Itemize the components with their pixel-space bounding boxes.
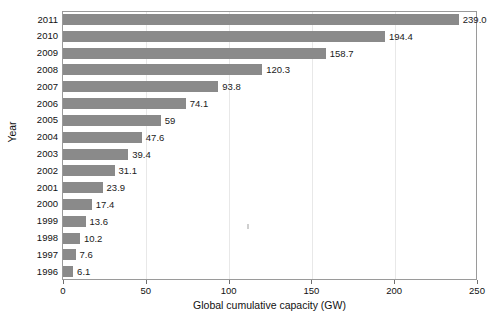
bar-row: 194.4 <box>63 28 477 45</box>
bar <box>63 48 326 59</box>
bar-row: 59 <box>63 112 477 129</box>
bar-chart: 2011201020092008200720062005200420032002… <box>0 0 499 327</box>
bar <box>63 14 459 25</box>
x-axis-tick-mark <box>394 280 395 284</box>
bar-value-label: 158.7 <box>330 46 354 61</box>
y-axis-tick-label: 1998 <box>0 232 58 244</box>
bar <box>63 115 161 126</box>
y-axis-tick-label: 2001 <box>0 182 58 194</box>
bar-row: 13.6 <box>63 213 477 230</box>
bar-row: 10.2 <box>63 230 477 247</box>
x-axis-tick-mark <box>229 280 230 284</box>
y-axis-tick-label: 2007 <box>0 81 58 93</box>
y-axis-title: Year <box>6 102 18 162</box>
bar <box>63 132 142 143</box>
bar <box>63 81 218 92</box>
bar <box>63 149 128 160</box>
bar-value-label: 13.6 <box>90 214 109 229</box>
bar-value-label: 47.6 <box>146 130 165 145</box>
bar-value-label: 23.9 <box>107 180 126 195</box>
bar <box>63 31 385 42</box>
bar-value-label: 194.4 <box>389 29 413 44</box>
bar <box>63 233 80 244</box>
x-axis-tick-label: 150 <box>303 285 319 297</box>
bar-row: 47.6 <box>63 129 477 146</box>
bar <box>63 182 103 193</box>
y-axis-tick-label: 1997 <box>0 249 58 261</box>
x-axis-tick-mark <box>146 280 147 284</box>
bar-row: 93.8 <box>63 78 477 95</box>
bar-value-label: 93.8 <box>222 79 241 94</box>
y-axis-tick-label: 1996 <box>0 266 58 278</box>
bar-row: 74.1 <box>63 95 477 112</box>
bar-row: 23.9 <box>63 179 477 196</box>
bar <box>63 249 76 260</box>
y-axis-tick-label: 2011 <box>0 14 58 26</box>
bar-row: 7.6 <box>63 246 477 263</box>
bar <box>63 98 186 109</box>
bar-row: 120.3 <box>63 61 477 78</box>
bar-value-label: 6.1 <box>77 264 90 279</box>
x-axis-title: Global cumulative capacity (GW) <box>62 299 477 311</box>
bar-value-label: 120.3 <box>266 62 290 77</box>
y-axis-tick-label: 2009 <box>0 47 58 59</box>
x-axis-tick-label: 200 <box>386 285 402 297</box>
x-axis-tick-mark <box>63 280 64 284</box>
x-axis-tick-label: 250 <box>469 285 485 297</box>
bar-row: 17.4 <box>63 196 477 213</box>
bar-value-label: 39.4 <box>132 147 151 162</box>
y-axis-tick-label: 2000 <box>0 198 58 210</box>
x-axis-tick-mark <box>477 280 478 284</box>
y-axis-tick-label: 2010 <box>0 30 58 42</box>
bar-row: 6.1 <box>63 263 477 280</box>
bar <box>63 199 92 210</box>
bar-value-label: 31.1 <box>119 163 138 178</box>
y-axis-tick-label: 2002 <box>0 165 58 177</box>
x-axis-tick-label: 100 <box>221 285 237 297</box>
bar <box>63 165 115 176</box>
bar-value-label: 239.0 <box>463 12 487 27</box>
y-axis-tick-label: 1999 <box>0 215 58 227</box>
bar-value-label: 17.4 <box>96 197 115 212</box>
y-axis-tick-label: 2008 <box>0 64 58 76</box>
x-axis-tick-mark <box>311 280 312 284</box>
bar <box>63 64 262 75</box>
bar-value-label: 7.6 <box>80 247 93 262</box>
bar-value-label: 10.2 <box>84 231 103 246</box>
bar <box>63 266 73 277</box>
bar-row: 239.0 <box>63 11 477 28</box>
bars-layer: 239.0194.4158.7120.393.874.15947.639.431… <box>63 11 477 280</box>
x-axis-tick-label: 0 <box>60 285 65 297</box>
bar-row: 158.7 <box>63 45 477 62</box>
x-axis-tick-label: 50 <box>141 285 152 297</box>
bar-value-label: 59 <box>165 113 176 128</box>
bar-row: 39.4 <box>63 146 477 163</box>
bar-row: 31.1 <box>63 162 477 179</box>
bar <box>63 216 86 227</box>
bar-value-label: 74.1 <box>190 96 209 111</box>
